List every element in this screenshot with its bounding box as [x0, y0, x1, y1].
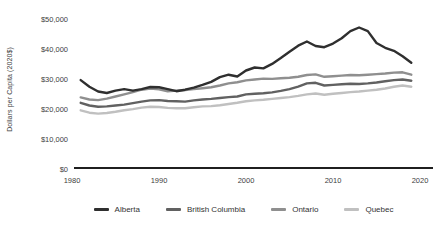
british-columbia-line-swatch-icon	[166, 208, 181, 211]
alberta-line-swatch-icon	[94, 208, 109, 211]
y-tick-label-30000: $30,000	[0, 75, 68, 84]
legend-item-alberta: Alberta	[94, 205, 140, 214]
legend-item-british-columbia: British Columbia	[166, 205, 245, 214]
legend-label-british-columbia: British Columbia	[187, 205, 245, 214]
y-tick-label-50000: $50,000	[0, 15, 68, 24]
legend-item-ontario: Ontario	[271, 205, 318, 214]
y-tick-label-10000: $10,000	[0, 135, 68, 144]
x-tick-label-2000: 2000	[224, 176, 268, 185]
y-tick-label-20000: $20,000	[0, 105, 68, 114]
x-tick-label-1990: 1990	[137, 176, 181, 185]
series-line-ontario	[81, 72, 412, 100]
x-tick-label-2020: 2020	[398, 176, 441, 185]
y-tick-label-0: $0	[0, 165, 68, 174]
ontario-line-swatch-icon	[271, 208, 286, 211]
legend-label-alberta: Alberta	[115, 205, 140, 214]
legend-label-quebec: Quebec	[365, 205, 393, 214]
x-tick-label-2010: 2010	[311, 176, 355, 185]
legend-item-quebec: Quebec	[344, 205, 393, 214]
legend-label-ontario: Ontario	[292, 205, 318, 214]
x-tick-label-1980: 1980	[50, 176, 94, 185]
quebec-line-swatch-icon	[344, 208, 359, 211]
y-tick-label-40000: $40,000	[0, 45, 68, 54]
line-chart-figure: Dollars per Capita (2020$) $50,000 $40,0…	[0, 0, 441, 225]
legend: Alberta British Columbia Ontario Quebec	[0, 205, 441, 214]
